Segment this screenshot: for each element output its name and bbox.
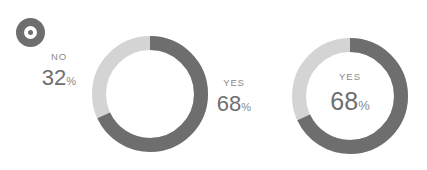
record-icon-inner-ring: [24, 26, 37, 39]
chart-canvas: NO 32% YES 68% YES 68%: [0, 0, 427, 170]
donut-2-center-label-category: YES: [305, 72, 395, 82]
donut-chart-1-svg: [92, 36, 208, 152]
donut-1-label-yes-value: 68: [217, 93, 241, 115]
donut-1-label-no-value: 32: [42, 67, 66, 89]
donut-1-label-yes-suffix: %: [241, 102, 251, 113]
donut-2-center-label-suffix: %: [358, 99, 370, 112]
donut-1-label-yes-category: YES: [205, 78, 263, 88]
donut-2-center-label-value: 68: [330, 89, 358, 114]
donut-1-label-no-suffix: %: [66, 76, 76, 87]
record-icon-inner-dot: [28, 30, 33, 35]
donut-1-label-no-category: NO: [30, 52, 88, 62]
donut-1-label-no: NO 32%: [30, 52, 88, 89]
donut-2-center-label: YES 68%: [305, 72, 395, 114]
record-icon[interactable]: [16, 18, 45, 47]
donut-1-label-yes: YES 68%: [205, 78, 263, 115]
donut-chart-1: [92, 36, 208, 152]
